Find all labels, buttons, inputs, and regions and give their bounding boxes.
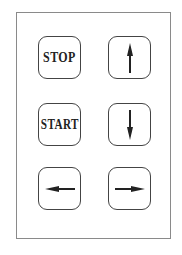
- right-button[interactable]: [108, 167, 151, 210]
- stop-label: STOP: [43, 49, 76, 66]
- down-button[interactable]: [108, 103, 151, 146]
- up-button[interactable]: [108, 36, 151, 79]
- arrow-down-icon: [120, 108, 140, 142]
- stop-button[interactable]: STOP: [38, 36, 81, 79]
- arrow-up-icon: [120, 41, 140, 75]
- arrow-right-icon: [113, 182, 147, 196]
- start-label: START: [40, 117, 78, 133]
- start-button[interactable]: START: [38, 103, 81, 146]
- left-button[interactable]: [38, 167, 81, 210]
- arrow-left-icon: [43, 182, 77, 196]
